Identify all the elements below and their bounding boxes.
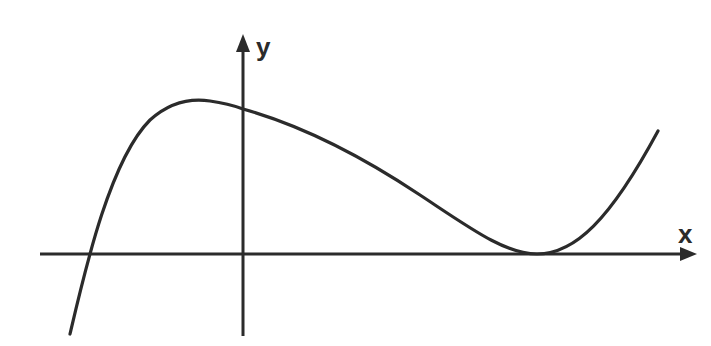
y-axis-arrow-icon [236,34,250,52]
y-axis [236,34,250,336]
graph-svg: y x [0,0,711,346]
y-axis-label: y [256,32,271,62]
function-curve [70,100,658,334]
x-axis-label: x [678,219,693,249]
x-axis [40,247,697,261]
x-axis-arrow-icon [680,247,697,261]
function-graph: y x [0,0,711,346]
